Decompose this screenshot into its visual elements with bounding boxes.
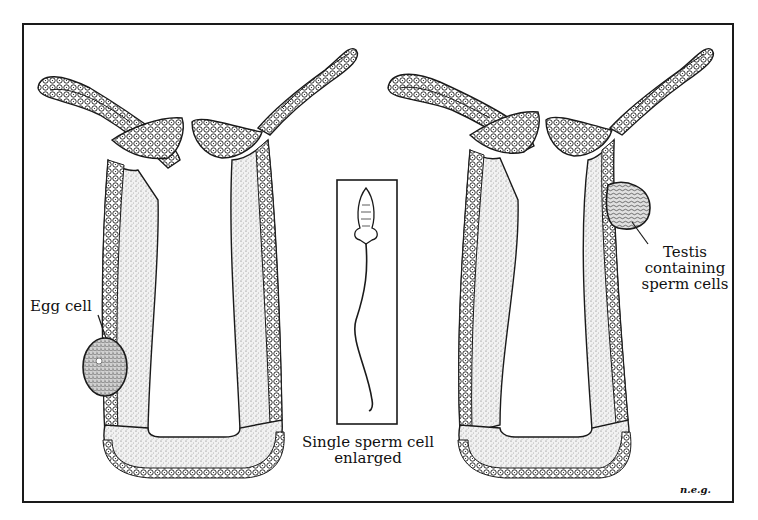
testis <box>606 183 650 229</box>
testis-label-line2: containing <box>640 260 730 276</box>
hypostome-right <box>192 119 262 158</box>
egg-cell-label: Egg cell <box>30 298 92 314</box>
sperm-label-line2: enlarged <box>298 450 438 466</box>
tentacle-right <box>258 49 358 135</box>
sperm-inset <box>337 180 397 424</box>
egg-cell <box>83 338 127 396</box>
testis-label-line3: sperm cells <box>640 276 730 292</box>
artist-signature: n.e.g. <box>680 484 711 495</box>
left-hydra <box>38 49 358 478</box>
testis-label-line1: Testis <box>640 244 730 260</box>
basal-disc <box>104 420 282 472</box>
basal-disc <box>459 420 629 472</box>
tentacle-right <box>610 49 713 135</box>
sperm-label-line1: Single sperm cell <box>298 434 438 450</box>
